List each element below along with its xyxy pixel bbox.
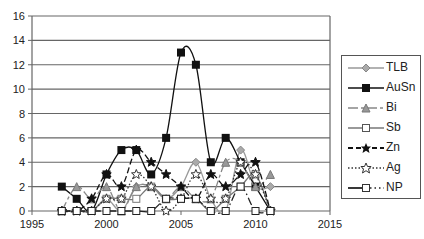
legend-label: TLB [386, 60, 408, 74]
legend-item-ag: Ag [342, 158, 422, 178]
y-tick-label: 16 [13, 10, 25, 22]
y-tick-label: 10 [13, 83, 25, 95]
x-tick-label: 1995 [20, 218, 44, 230]
y-tick-label: 4 [19, 156, 25, 168]
legend-label: Ag [386, 160, 401, 174]
legend-item-bi: Bi [342, 98, 422, 118]
series-lines [57, 46, 275, 215]
gridlines [32, 16, 330, 187]
y-tick-label: 2 [19, 181, 25, 193]
legend-item-tlb: TLB [342, 58, 422, 78]
legend-item-np: NP [342, 178, 422, 198]
y-tick-label: 14 [13, 34, 25, 46]
x-tick-label: 2010 [243, 218, 267, 230]
legend-item-sb: Sb [342, 118, 422, 138]
x-tick-label: 2015 [318, 218, 342, 230]
legend-label: Zn [386, 140, 400, 154]
legend-label: NP [386, 180, 403, 194]
legend-label: Sb [386, 120, 401, 134]
legend-item-ausn: AuSn [342, 78, 422, 98]
legend-item-zn: Zn [342, 138, 422, 158]
legend-triangle-marker-icon [348, 102, 384, 114]
series-zn [57, 145, 275, 215]
y-tick-label: 0 [19, 205, 25, 217]
legend-star-marker-icon [348, 142, 384, 154]
legend-diamond-marker-icon [348, 62, 384, 74]
legend-label: Bi [386, 100, 397, 114]
x-tick-label: 2005 [169, 218, 193, 230]
legend: TLB AuSn Bi Sb Zn Ag NP [341, 55, 421, 199]
legend-label: AuSn [386, 80, 415, 94]
legend-open-square-marker-icon [348, 122, 384, 134]
y-tick-label: 12 [13, 59, 25, 71]
x-tick-label: 2000 [94, 218, 118, 230]
legend-square-marker-icon [348, 82, 384, 94]
y-tick-label: 8 [19, 108, 25, 120]
y-tick-label: 6 [19, 132, 25, 144]
legend-open-square-marker-icon [348, 182, 384, 194]
legend-open-star-marker-icon [348, 162, 384, 174]
